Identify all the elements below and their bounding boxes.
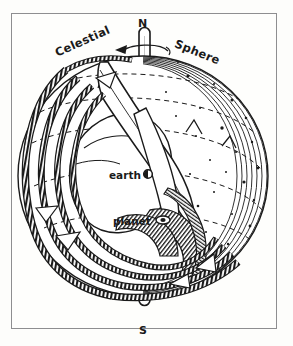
planet-marker-icon <box>156 216 170 224</box>
label-earth: earth <box>109 170 141 181</box>
label-planet: planet <box>113 216 151 227</box>
label-south-pole: S <box>139 325 147 336</box>
label-north-pole: N <box>138 18 147 29</box>
celestial-sphere-illustration <box>0 0 293 346</box>
figure-page: N S Celestial Sphere earth planet <box>0 0 293 346</box>
earth-marker-icon <box>144 170 153 179</box>
